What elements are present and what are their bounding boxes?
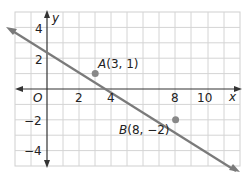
point-b-label: B(8, −2) — [119, 123, 170, 137]
x-tick-8: 8 — [171, 91, 179, 105]
point-a-label: A(3, 1) — [97, 57, 138, 71]
y-tick-4: 4 — [35, 22, 43, 36]
point-a-marker — [92, 70, 99, 77]
point-b-marker — [172, 116, 179, 123]
y-tick-neg4: −4 — [24, 144, 42, 158]
x-tick-4: 4 — [107, 91, 115, 105]
x-tick-2: 2 — [75, 91, 83, 105]
y-tick-neg2: −2 — [24, 114, 42, 128]
coordinate-plane: y x O 2 4 8 10 4 2 −2 −4 A(3, 1) B(8, −2… — [0, 0, 251, 175]
point-a-coords: (3, 1) — [106, 57, 138, 71]
origin-label: O — [33, 91, 42, 105]
x-axis-label: x — [228, 90, 237, 104]
x-tick-10: 10 — [197, 91, 212, 105]
point-b-coords: (8, −2) — [127, 123, 169, 137]
y-axis-label: y — [51, 11, 60, 25]
y-tick-2: 2 — [35, 53, 43, 67]
